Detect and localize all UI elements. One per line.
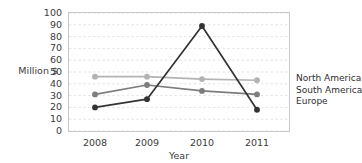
x-tick-2010: 2010 (180, 138, 224, 148)
x-tick-2009: 2009 (125, 138, 169, 148)
y-tick-30: 30 (40, 91, 62, 101)
y-tick-60: 60 (40, 55, 62, 65)
plot-area (68, 12, 290, 132)
data-point-europe-2011 (254, 107, 260, 113)
y-tick-90: 90 (40, 20, 62, 30)
chart-title-remnant (0, 0, 362, 7)
series-line-europe (95, 26, 257, 110)
y-tick-0: 0 (40, 126, 62, 136)
data-point-north-america-2009 (144, 74, 150, 80)
plot-svg (69, 13, 289, 131)
data-point-north-america-2010 (199, 76, 205, 82)
line-chart: Million $ 1009080706050403020100 2008200… (0, 0, 362, 163)
data-point-europe-2009 (144, 96, 150, 102)
y-tick-50: 50 (40, 67, 62, 77)
y-tick-100: 100 (40, 8, 62, 18)
data-point-europe-2008 (92, 105, 98, 111)
data-point-south-america-2008 (92, 92, 98, 98)
legend-item-north-america: North America (296, 73, 362, 85)
x-tick-2008: 2008 (73, 138, 117, 148)
y-tick-20: 20 (40, 102, 62, 112)
series-line-north-america (95, 77, 257, 81)
data-point-south-america-2010 (199, 88, 205, 94)
data-point-north-america-2008 (92, 74, 98, 80)
legend-item-south-america: South America (296, 85, 362, 97)
data-point-south-america-2009 (144, 82, 150, 88)
y-tick-70: 70 (40, 43, 62, 53)
y-tick-40: 40 (40, 79, 62, 89)
data-point-europe-2010 (199, 23, 205, 29)
legend-item-europe: Europe (296, 96, 362, 108)
x-axis-label: Year (68, 150, 290, 161)
series-line-south-america (95, 85, 257, 94)
y-tick-10: 10 (40, 114, 62, 124)
y-tick-80: 80 (40, 32, 62, 42)
data-point-north-america-2011 (254, 77, 260, 83)
data-point-south-america-2011 (254, 92, 260, 98)
x-tick-2011: 2011 (235, 138, 279, 148)
chart-legend: North AmericaSouth AmericaEurope (296, 73, 362, 108)
